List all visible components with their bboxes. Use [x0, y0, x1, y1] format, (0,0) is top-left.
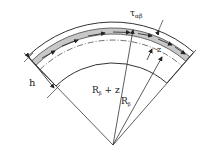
radius-z-label: Rβ + z [92, 85, 120, 97]
h-label: h [29, 77, 36, 88]
inner-surface-arc [56, 63, 167, 86]
radius-label: Rβ [121, 96, 131, 108]
shell-section-diagram: ταβ z h Rβ + z Rβ [0, 0, 207, 154]
z-label: z [157, 45, 161, 54]
diagram-canvas: ταβ z h Rβ + z Rβ [0, 0, 207, 154]
tau-label: ταβ [130, 8, 143, 20]
